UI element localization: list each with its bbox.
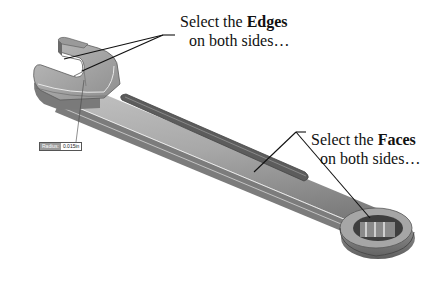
radius-label: Radius: (40, 143, 61, 150)
radius-value[interactable]: 0.015in (61, 143, 81, 150)
faces-callout-line1: Select the Faces (311, 130, 420, 149)
box-end-head (340, 208, 415, 259)
edges-callout: Select the Edges on both sides… (180, 12, 289, 50)
edges-callout-line1: Select the Edges (180, 12, 289, 31)
faces-keyword: Faces (378, 131, 416, 148)
faces-callout: Select the Faces on both sides… (311, 130, 420, 168)
edges-callout-line2: on both sides… (180, 31, 289, 50)
edges-keyword: Edges (247, 13, 288, 30)
faces-callout-line2: on both sides… (311, 149, 420, 168)
radius-tag[interactable]: Radius: 0.015in (39, 142, 82, 151)
